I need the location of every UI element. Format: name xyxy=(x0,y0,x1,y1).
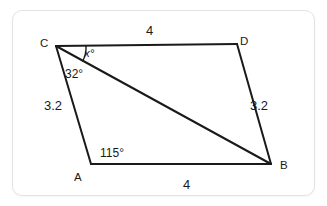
angle-label-x: x° xyxy=(84,48,94,60)
geometry-diagram-screenshot: C D B A 4 4 3.2 3.2 x° 32° 115° xyxy=(0,0,327,206)
figure-edges xyxy=(56,44,271,164)
vertex-label-d: D xyxy=(240,36,248,48)
vertex-label-c: C xyxy=(40,38,48,50)
angle-label-32: 32° xyxy=(65,68,83,80)
edge-CD xyxy=(56,44,237,46)
vertex-label-a: A xyxy=(74,172,82,184)
side-label-ab: 4 xyxy=(183,178,190,191)
side-label-db: 3.2 xyxy=(250,99,268,112)
angle-label-115: 115° xyxy=(100,147,124,159)
diagonal-CB xyxy=(56,46,271,164)
vertex-label-b: B xyxy=(280,160,288,172)
side-label-ca: 3.2 xyxy=(44,99,62,112)
side-label-cd: 4 xyxy=(146,24,153,37)
